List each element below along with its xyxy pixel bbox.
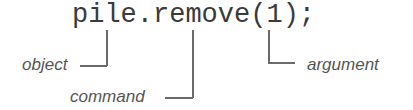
object-label: object: [22, 55, 67, 75]
command-connector-vertical: [192, 30, 194, 98]
code-statement: pile.remove(1);: [72, 0, 315, 30]
object-connector-vertical: [106, 30, 108, 66]
argument-label: argument: [307, 55, 379, 75]
argument-connector-horizontal: [268, 62, 295, 64]
object-connector-horizontal: [80, 65, 107, 67]
command-label: command: [70, 87, 145, 107]
command-connector-horizontal: [165, 97, 193, 99]
argument-connector-vertical: [268, 30, 270, 63]
